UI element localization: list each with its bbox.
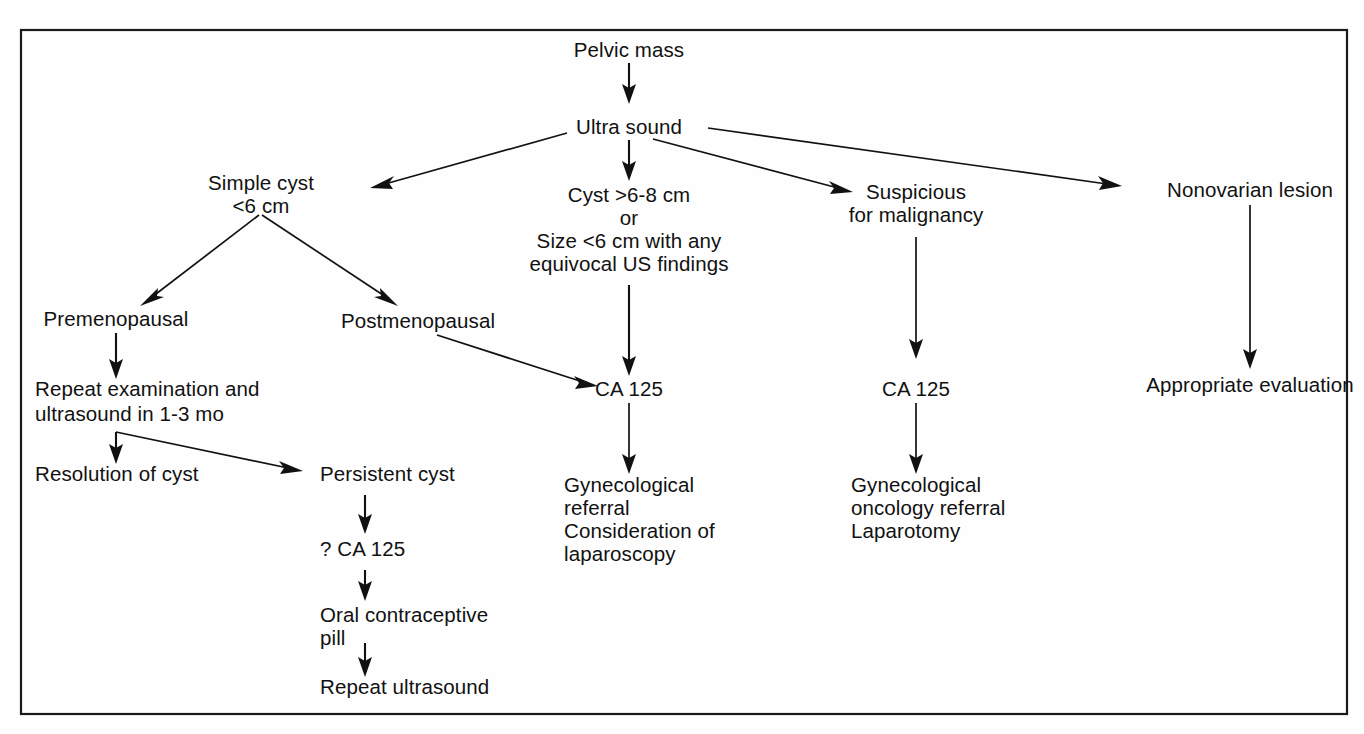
edge-nonovarian-to-appropriate-eval xyxy=(1243,205,1257,369)
edge-suspicious-to-ca125-right xyxy=(909,237,923,359)
edge-cyst-large-to-ca125-center xyxy=(622,285,636,376)
node-ultra-sound: Ultra sound xyxy=(576,115,682,138)
edge-repeat-exam-to-resolution xyxy=(109,432,123,464)
node-repeat-exam-line1: Repeat examination and xyxy=(35,377,259,400)
edge-simple-cyst-to-postmenopausal xyxy=(262,215,398,306)
node-ocp-line2: pill xyxy=(320,626,345,649)
edge-layer xyxy=(109,63,1257,677)
edge-ca125-center-to-gyn-referral xyxy=(622,403,636,474)
node-gyn-onc-referral-line2: oncology referral xyxy=(851,496,1005,519)
node-appropriate-evaluation: Appropriate evaluation xyxy=(1146,373,1353,396)
node-repeat-exam-line2: ultrasound in 1-3 mo xyxy=(35,402,224,425)
node-gyn-referral-line1: Gynecological xyxy=(564,473,694,496)
node-premenopausal: Premenopausal xyxy=(44,307,189,330)
edge-simple-cyst-to-premenopausal xyxy=(140,215,259,306)
node-resolution-of-cyst: Resolution of cyst xyxy=(35,462,199,485)
flowchart-figure: Pelvic mass Ultra sound Simple cyst <6 c… xyxy=(0,0,1364,734)
node-nonovarian-lesion: Nonovarian lesion xyxy=(1167,178,1333,201)
flowchart-canvas: Pelvic mass Ultra sound Simple cyst <6 c… xyxy=(0,0,1364,734)
node-ocp-line1: Oral contraceptive xyxy=(320,603,488,626)
node-cyst-large-line2: or xyxy=(620,206,639,229)
edge-ocp-to-repeat-us xyxy=(358,643,372,677)
node-gyn-referral-line2: referral xyxy=(564,496,630,519)
node-layer: Pelvic mass Ultra sound Simple cyst <6 c… xyxy=(35,38,1354,698)
node-cyst-large-line1: Cyst >6-8 cm xyxy=(568,183,691,206)
node-q-ca125: ? CA 125 xyxy=(320,537,405,560)
node-gyn-onc-referral-line1: Gynecological xyxy=(851,473,981,496)
edge-q-ca125-to-ocp xyxy=(358,570,372,601)
node-repeat-ultrasound: Repeat ultrasound xyxy=(320,675,489,698)
node-cyst-large-line4: equivocal US findings xyxy=(529,252,728,275)
node-simple-cyst-line2: <6 cm xyxy=(233,194,290,217)
edge-persistent-to-q-ca125 xyxy=(358,495,372,534)
edge-ca125-right-to-gyn-onc xyxy=(909,403,923,474)
edge-postmenopausal-to-ca125-center xyxy=(437,335,598,389)
node-ca125-center: CA 125 xyxy=(595,377,663,400)
node-gyn-onc-referral-line3: Laparotomy xyxy=(851,519,961,542)
edge-ultrasound-to-simple-cyst xyxy=(370,133,567,189)
node-postmenopausal: Postmenopausal xyxy=(341,309,495,332)
node-ca125-right: CA 125 xyxy=(882,377,950,400)
edge-premenopausal-to-repeat-exam xyxy=(109,333,123,379)
edge-ultrasound-to-cyst-large xyxy=(622,140,636,181)
figure-border xyxy=(21,30,1347,714)
node-suspicious-line1: Suspicious xyxy=(866,180,966,203)
node-simple-cyst-line1: Simple cyst xyxy=(208,171,314,194)
node-cyst-large-line3: Size <6 cm with any xyxy=(537,229,722,252)
node-gyn-referral-line4: laparoscopy xyxy=(564,542,676,565)
node-persistent-cyst: Persistent cyst xyxy=(320,462,455,485)
node-gyn-referral-line3: Consideration of xyxy=(564,519,715,542)
node-suspicious-line2: for malignancy xyxy=(849,203,984,226)
edge-pelvic-to-ultrasound xyxy=(622,63,636,104)
node-pelvic-mass: Pelvic mass xyxy=(574,38,684,61)
